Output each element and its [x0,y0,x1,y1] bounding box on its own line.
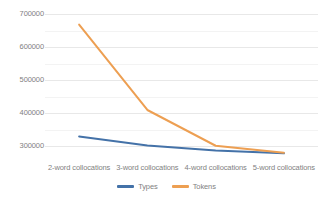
plot-area [45,10,318,158]
chart-legend: Types Tokens [0,182,333,191]
series-lines [45,10,318,158]
legend-swatch-icon [172,185,189,187]
line-chart: 700000 600000 500000 400000 300000 2-wor… [0,0,333,201]
series-line-types [79,136,284,153]
legend-swatch-icon [117,185,134,187]
x-axis-tick-label: 2-word collocations [45,163,113,175]
y-axis-tick-label: 500000 [0,76,44,84]
y-axis-tick-label: 300000 [0,142,44,150]
y-axis-tick-label: 600000 [0,43,44,51]
legend-label: Types [138,182,158,191]
y-axis-tick-label: 700000 [0,10,44,18]
x-axis-tick-label: 5-word collocations [250,163,318,175]
x-axis-tick-label: 4-word collocations [182,163,250,175]
legend-item-tokens[interactable]: Tokens [172,182,216,191]
legend-label: Tokens [193,182,216,191]
y-axis-tick-label: 400000 [0,109,44,117]
x-axis-tick-label: 3-word collocations [113,163,181,175]
legend-item-types[interactable]: Types [117,182,158,191]
series-line-tokens [79,25,284,153]
x-axis-labels: 2-word collocations 3-word collocations … [45,163,318,175]
